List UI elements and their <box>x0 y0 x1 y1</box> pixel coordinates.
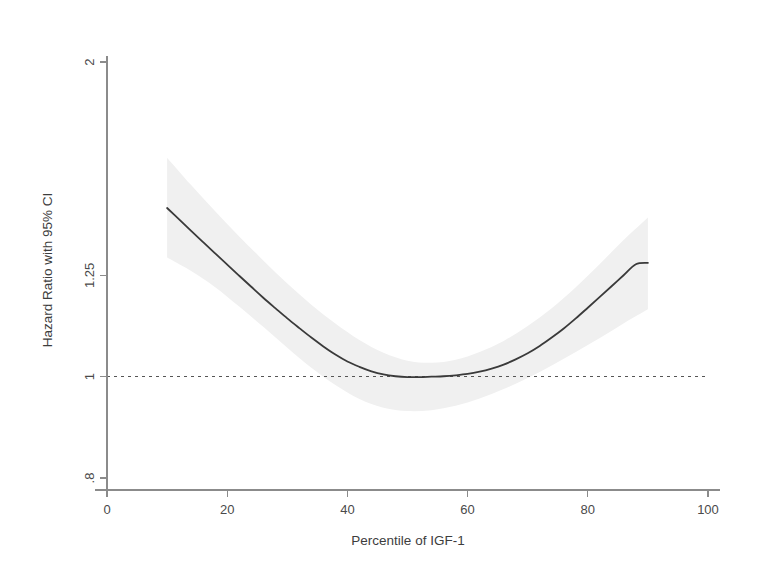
chart-figure: .811.252 020406080100 Percentile of IGF-… <box>0 0 764 576</box>
y-tick-label: .8 <box>82 473 97 484</box>
x-axis-title: Percentile of IGF-1 <box>351 533 464 548</box>
x-tick-label: 20 <box>220 502 234 517</box>
hazard-ratio-plot: .811.252 020406080100 Percentile of IGF-… <box>0 0 764 576</box>
y-tick-label: 1 <box>82 373 97 380</box>
y-tick-label: 1.25 <box>82 263 97 288</box>
x-tick-label: 0 <box>103 502 110 517</box>
x-tick-label: 60 <box>460 502 474 517</box>
y-axis-title: Hazard Ratio with 95% CI <box>40 193 55 348</box>
y-tick-label: 2 <box>82 58 97 65</box>
x-tick-label: 40 <box>340 502 354 517</box>
x-tick-label: 80 <box>581 502 595 517</box>
x-tick-label: 100 <box>697 502 719 517</box>
